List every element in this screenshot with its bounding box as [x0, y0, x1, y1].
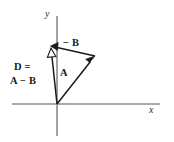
- x-axis-label: x: [149, 105, 153, 115]
- vector-minus-b-shaft: [56, 47, 95, 56]
- vector-a-group: [57, 56, 95, 104]
- vector-minus-b-label: − B: [63, 38, 79, 49]
- vector-diagram-figure: − B A D = A − B x y: [0, 0, 174, 142]
- vector-d-label-line2: A − B: [10, 76, 36, 87]
- vector-a-arrowhead: [86, 56, 95, 62]
- vector-d-group: [47, 48, 57, 104]
- vector-d-label-line1: D =: [14, 62, 31, 73]
- vector-a-label: A: [60, 68, 68, 79]
- vector-d-arrowhead: [47, 48, 55, 57]
- y-axis-label: y: [45, 9, 49, 19]
